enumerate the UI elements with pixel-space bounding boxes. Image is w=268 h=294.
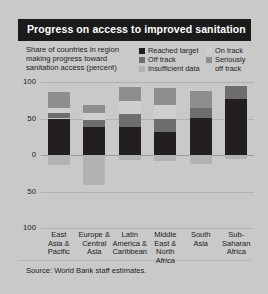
x-axis-category-label: Latin America & Caribbean [110, 231, 150, 257]
bar-segment [119, 127, 141, 155]
bar-segment [48, 155, 70, 165]
bar-segment [154, 88, 176, 105]
bar-segment [119, 101, 141, 114]
bar-group [48, 82, 70, 228]
legend-swatch-reached-target [139, 48, 145, 54]
y-axis-tick-label: 50 [6, 187, 36, 196]
bar-segment [225, 155, 247, 159]
bar-segment [119, 155, 141, 160]
page-title: Progress on access to improved sanitatio… [27, 23, 246, 35]
chart-subtitle: Share of countries in region making prog… [26, 46, 138, 72]
bar-segment [225, 99, 247, 155]
bar-segment [154, 155, 176, 161]
y-axis-tick-label: 0 [6, 150, 36, 159]
x-axis-category-label: Europe & Central Asia [74, 231, 114, 257]
gridline-50-3 [41, 192, 254, 193]
legend-label-seriously-off-track: Seriously off track [215, 56, 245, 73]
legend-swatch-insufficient-data [139, 66, 145, 72]
gridline-50-1 [41, 119, 254, 120]
legend-item-insufficient-data: Insufficient data [139, 65, 200, 74]
bar-segment [190, 108, 212, 117]
bar-segment [83, 113, 105, 120]
chart-figure: Progress on access to improved sanitatio… [0, 0, 268, 294]
bar-segment [190, 118, 212, 155]
gridline-100-4 [41, 228, 254, 229]
bar-segment [119, 87, 141, 101]
legend-swatch-seriously-off-track [206, 57, 212, 63]
bar-segment [83, 155, 105, 185]
x-axis-category-label: East Asia & Pacific [39, 231, 79, 257]
bar-segment [48, 119, 70, 156]
chart-legend: Reached target Off track Insufficient da… [139, 47, 267, 77]
bar-segment [154, 132, 176, 155]
bar-segment [225, 86, 247, 98]
chart-title-bar: Progress on access to improved sanitatio… [18, 19, 251, 41]
gridline-100-0 [41, 82, 254, 83]
bar-segment [154, 119, 176, 133]
x-axis-category-label: Sub- Saharan Africa [216, 231, 256, 257]
y-axis-tick-label: 100 [6, 223, 36, 232]
y-axis-tick-label: 50 [6, 114, 36, 123]
x-axis-category-label: Middle East & North Africa [145, 231, 185, 265]
bar-group [119, 82, 141, 228]
footer-divider [18, 260, 251, 261]
legend-swatch-off-track [139, 57, 145, 63]
legend-label-insufficient-data: Insufficient data [148, 65, 200, 74]
bar-group [190, 82, 212, 228]
bar-group [154, 82, 176, 228]
bar-segment [48, 113, 70, 119]
bar-segment [190, 91, 212, 108]
legend-swatch-on-track [206, 48, 212, 54]
bar-segment [48, 108, 70, 113]
bar-segment [154, 105, 176, 119]
bar-segment [48, 92, 70, 107]
x-axis-category-label: South Asia [181, 231, 221, 248]
bar-segment [83, 105, 105, 114]
chart-source-note: Source: World Bank staff estimates. [26, 266, 146, 275]
bar-segment [83, 127, 105, 155]
chart-plot-area [41, 82, 254, 228]
bar-segment [190, 155, 212, 164]
bar-group [225, 82, 247, 228]
bar-group [83, 82, 105, 228]
legend-item-seriously-off-track: Seriously off track [206, 56, 245, 73]
bar-segment [83, 120, 105, 127]
gridline-0-2 [41, 155, 254, 156]
y-axis-tick-label: 100 [6, 77, 36, 86]
bar-segment [119, 114, 141, 127]
